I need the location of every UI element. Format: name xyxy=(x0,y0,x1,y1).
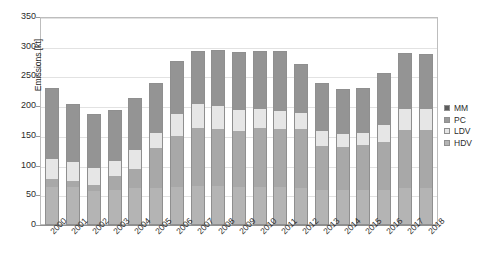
bar-column[interactable] xyxy=(87,17,101,225)
stacked-bar[interactable] xyxy=(191,51,205,225)
stacked-bar[interactable] xyxy=(170,61,184,225)
legend-swatch-icon xyxy=(444,105,450,111)
bar-segment-ldv xyxy=(274,111,286,129)
bar-segment-ldv xyxy=(254,109,266,128)
stacked-bar[interactable] xyxy=(128,98,142,225)
bar-column[interactable] xyxy=(149,17,163,225)
stacked-bar[interactable] xyxy=(273,51,287,225)
stacked-bar[interactable] xyxy=(66,104,80,225)
stacked-bar[interactable] xyxy=(87,114,101,225)
bar-segment-pc xyxy=(212,129,224,186)
bar-segment-ldv xyxy=(316,131,328,145)
bar-column[interactable] xyxy=(66,17,80,225)
bar-segment-pc xyxy=(337,147,349,190)
bar-segment-mm xyxy=(399,54,411,109)
bar-segment-hdv xyxy=(192,186,204,224)
y-tick-label: 350 xyxy=(6,11,36,21)
bar-segment-ldv xyxy=(212,106,224,129)
stacked-bar[interactable] xyxy=(398,53,412,225)
bar-segment-pc xyxy=(254,128,266,187)
bar-column[interactable] xyxy=(211,17,225,225)
bar-segment-pc xyxy=(150,148,162,188)
bar-column[interactable] xyxy=(336,17,350,225)
bar-segment-mm xyxy=(254,52,266,108)
legend-label: LDV xyxy=(454,127,471,136)
bar-segment-ldv xyxy=(109,161,121,176)
chart-legend: MMPCLDVHDV xyxy=(444,104,472,147)
legend-label: PC xyxy=(454,116,466,125)
stacked-bar[interactable] xyxy=(45,88,59,225)
y-axis-ticks: 050100150200250300350 xyxy=(4,17,36,225)
bar-segment-hdv xyxy=(171,187,183,224)
bar-segment-hdv xyxy=(129,188,141,224)
stacked-bar[interactable] xyxy=(356,88,370,225)
legend-item-hdv[interactable]: HDV xyxy=(444,139,472,148)
stacked-bar[interactable] xyxy=(315,83,329,225)
bar-column[interactable] xyxy=(45,17,59,225)
bar-column[interactable] xyxy=(232,17,246,225)
bar-segment-ldv xyxy=(88,168,100,185)
bar-column[interactable] xyxy=(315,17,329,225)
legend-label: MM xyxy=(454,104,468,113)
y-tick-label: 50 xyxy=(6,189,36,199)
stacked-bar[interactable] xyxy=(149,83,163,225)
bar-segment-ldv xyxy=(399,109,411,130)
bar-column[interactable] xyxy=(419,17,433,225)
stacked-bar[interactable] xyxy=(336,89,350,225)
bar-column[interactable] xyxy=(356,17,370,225)
x-axis-labels: 2000200120022003200420052006200720082009… xyxy=(40,226,438,261)
stacked-bar[interactable] xyxy=(253,51,267,225)
stacked-bar[interactable] xyxy=(377,73,391,225)
stacked-bar[interactable] xyxy=(108,110,122,225)
bar-segment-ldv xyxy=(67,162,79,181)
bar-column[interactable] xyxy=(128,17,142,225)
bar-column[interactable] xyxy=(253,17,267,225)
stacked-bar[interactable] xyxy=(211,50,225,225)
bar-segment-mm xyxy=(378,74,390,125)
bar-segment-mm xyxy=(316,84,328,131)
bar-segment-mm xyxy=(337,90,349,134)
bar-segment-ldv xyxy=(129,150,141,169)
bar-segment-mm xyxy=(357,89,369,132)
bar-column[interactable] xyxy=(273,17,287,225)
y-tick-label: 150 xyxy=(6,130,36,140)
bar-segment-mm xyxy=(295,65,307,113)
legend-swatch-icon xyxy=(444,140,450,146)
y-tick-label: 200 xyxy=(6,100,36,110)
bar-column[interactable] xyxy=(191,17,205,225)
bar-column[interactable] xyxy=(108,17,122,225)
bar-segment-ldv xyxy=(295,113,307,129)
legend-swatch-icon xyxy=(444,117,450,123)
bar-segment-ldv xyxy=(150,133,162,148)
bar-segment-pc xyxy=(378,142,390,190)
bar-segment-ldv xyxy=(337,134,349,147)
bar-segment-pc xyxy=(420,130,432,188)
legend-label: HDV xyxy=(454,139,472,148)
legend-item-pc[interactable]: PC xyxy=(444,116,472,125)
bar-segment-ldv xyxy=(233,110,245,131)
bar-segment-pc xyxy=(316,146,328,190)
bar-column[interactable] xyxy=(377,17,391,225)
bar-segment-hdv xyxy=(233,187,245,224)
bar-segment-mm xyxy=(233,53,245,110)
bar-column[interactable] xyxy=(398,17,412,225)
legend-item-mm[interactable]: MM xyxy=(444,104,472,113)
bar-segment-mm xyxy=(171,62,183,114)
stacked-bar[interactable] xyxy=(232,52,246,225)
bar-segment-hdv xyxy=(254,187,266,224)
legend-item-ldv[interactable]: LDV xyxy=(444,127,472,136)
emissions-stacked-bar-chart: 050100150200250300350 Emissions [kt] 200… xyxy=(0,0,488,261)
bar-segment-ldv xyxy=(171,114,183,136)
bar-segment-ldv xyxy=(357,133,369,145)
bar-segment-pc xyxy=(171,136,183,187)
bar-segment-ldv xyxy=(46,159,58,180)
bar-column[interactable] xyxy=(294,17,308,225)
bar-segment-ldv xyxy=(420,109,432,130)
bar-segment-pc xyxy=(233,131,245,187)
y-tick-label: 0 xyxy=(6,219,36,229)
stacked-bar[interactable] xyxy=(419,54,433,225)
bar-segment-ldv xyxy=(378,125,390,142)
legend-swatch-icon xyxy=(444,128,450,134)
stacked-bar[interactable] xyxy=(294,64,308,225)
bar-column[interactable] xyxy=(170,17,184,225)
